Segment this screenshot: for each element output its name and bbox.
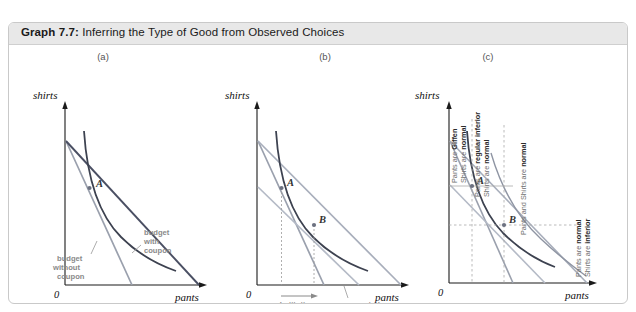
panel-c-compensated-budget-line <box>450 185 545 283</box>
panel-a: (a) A shirts pants 0 budget with coupon … <box>13 45 221 304</box>
panel-b-origin-label: 0 <box>246 289 252 300</box>
panel-a-point-A-marker <box>87 186 91 190</box>
panel-b-compensated-budget-line <box>258 187 359 285</box>
panel-b: (b) A B shirts pants 0 substitution <box>215 45 423 304</box>
panel-c-r0-l2-plain: Shirts are <box>459 150 468 183</box>
panel-c-r3-l2-plain: Shirts are <box>583 244 592 277</box>
svg-text:Pants are normal: Pants are normal <box>574 219 583 277</box>
panel-c-x-axis-label: pants <box>564 289 589 301</box>
panel-c-r0-l1-plain: Pants are <box>450 150 459 183</box>
panel-c-origin-label: 0 <box>438 287 444 298</box>
panel-c: (c) A B shirts pants 0 Pants are Giffen <box>405 45 627 304</box>
figure-title: Graph 7.7: Inferring the Type of Good fr… <box>21 26 344 38</box>
panel-b-point-A-label: A <box>286 177 294 188</box>
panel-a-budget-without-coupon-annotation: budget without coupon <box>52 241 97 281</box>
panel-a-origin-label: 0 <box>54 289 60 300</box>
panel-c-r2-l1-bold: normal <box>519 143 528 167</box>
panel-c-r1-l2-plain: Shirts are <box>482 164 491 197</box>
panel-c-y-axis-label: shirts <box>415 89 439 101</box>
panel-b-point-A-marker <box>279 186 283 190</box>
panel-c-r2-l1-plain: Pants and Shirts are <box>519 167 528 235</box>
panel-c-both-normal-region-label: Pants and Shirts are normal <box>519 143 528 235</box>
svg-text:Shirts are normal: Shirts are normal <box>459 125 468 183</box>
panel-c-shirts-inferior-region-label: Pants are normal Shirts are inferior <box>574 218 592 277</box>
panel-c-point-B-marker <box>502 223 506 227</box>
panel-c-r0-l1-bold: Giffen <box>450 129 459 150</box>
panel-c-x-arrow <box>589 280 597 285</box>
panel-c-r0-l2-bold: normal <box>459 125 468 149</box>
panel-a-bwc-line1: budget <box>144 228 170 237</box>
figure-title-bar: Graph 7.7: Inferring the Type of Good fr… <box>9 23 627 45</box>
panel-c-r3-l1-plain: Pants are <box>574 244 583 277</box>
panel-a-bwc-line2: with <box>143 237 160 246</box>
panel-c-giffen-region-label: Pants are Giffen Shirts are normal <box>450 125 468 183</box>
panel-a-y-arrow <box>62 101 67 109</box>
panel-c-r3-l1-bold: normal <box>574 219 583 243</box>
panel-a-bwoc-line1: budget <box>57 254 83 263</box>
panel-b-y-arrow <box>254 101 259 109</box>
panel-b-se-arrowhead <box>311 294 318 299</box>
svg-text:Pants are Giffen: Pants are Giffen <box>450 129 459 183</box>
figure-container: Graph 7.7: Inferring the Type of Good fr… <box>8 22 628 304</box>
panel-a-bwoc-line3: coupon <box>57 272 85 281</box>
panel-c-r3-l2-bold: inferior <box>583 218 592 243</box>
panel-b-substitution-effect-annotation: substitution effect <box>271 294 318 304</box>
panel-a-bwc-line3: coupon <box>144 246 172 255</box>
svg-text:Pants and Shirts are normal: Pants and Shirts are normal <box>519 143 528 235</box>
figure-title-text: Inferring the Type of Good from Observed… <box>79 26 345 38</box>
panel-b-y-axis-label: shirts <box>225 89 249 101</box>
svg-text:Pants are regular inferior: Pants are regular inferior <box>473 112 482 197</box>
svg-text:Shirts are normal: Shirts are normal <box>482 139 491 197</box>
panel-a-x-axis-label: pants <box>174 291 199 303</box>
figure-title-prefix: Graph 7.7: <box>21 26 79 38</box>
panel-b-point-B-label: B <box>318 214 326 225</box>
panel-c-indifference-curve-2 <box>491 153 586 276</box>
panel-a-budget-with-coupon-line <box>66 141 199 285</box>
panel-b-compensated-budget-annotation: compensated budget <box>331 286 380 304</box>
panel-b-cb-leader <box>344 286 348 298</box>
panel-c-r1-l1-plain: Pants are <box>473 164 482 197</box>
panel-c-y-arrow <box>446 101 451 109</box>
panel-a-y-axis-label: shirts <box>33 89 57 101</box>
panel-b-se-line1: substitution <box>271 300 315 304</box>
panel-a-bwoc-line2: without <box>52 263 80 272</box>
panel-c-point-B-label: B <box>508 214 516 225</box>
panel-c-r1-l1-bold: regular inferior <box>473 112 482 164</box>
panel-a-bwoc-leader <box>91 241 97 254</box>
svg-text:Shirts are inferior: Shirts are inferior <box>583 218 592 277</box>
panel-a-point-A-label: A <box>95 178 103 189</box>
panel-b-point-B-marker <box>312 223 316 227</box>
panel-c-regular-inferior-region-label: Pants are regular inferior Shirts are no… <box>473 112 491 197</box>
panel-a-x-arrow <box>199 282 207 287</box>
panel-c-r1-l2-bold: normal <box>482 139 491 163</box>
panel-b-cb-line1: compensated <box>331 300 380 304</box>
panel-b-budget-without-coupon-line <box>258 141 324 285</box>
